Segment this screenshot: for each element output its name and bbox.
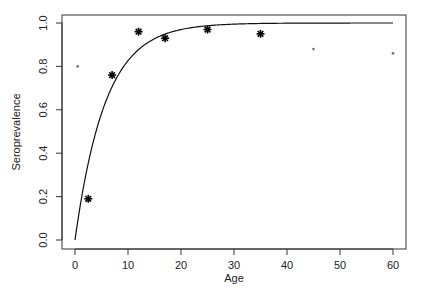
y-tick-label: 0.0 — [37, 232, 49, 247]
chart-canvas: 0102030405060 0.00.20.40.60.81.0 Age Ser… — [0, 0, 421, 305]
x-tick-label: 30 — [228, 259, 240, 271]
data-point-dot — [392, 52, 395, 55]
data-point-star — [161, 34, 169, 42]
y-tick-label: 0.2 — [37, 189, 49, 204]
data-point-star — [204, 26, 212, 34]
data-point-star — [257, 30, 265, 38]
y-tick-label: 1.0 — [37, 15, 49, 30]
x-tick-label: 50 — [334, 259, 346, 271]
x-tick-label: 10 — [122, 259, 134, 271]
data-point-star — [135, 28, 143, 36]
fitted-curve — [75, 23, 393, 240]
y-tick-label: 0.8 — [37, 59, 49, 74]
x-tick-label: 0 — [72, 259, 78, 271]
x-tick-label: 40 — [281, 259, 293, 271]
plot-frame — [62, 15, 406, 249]
x-tick-label: 20 — [175, 259, 187, 271]
y-tick-label: 0.4 — [37, 146, 49, 161]
y-axis: 0.00.20.40.60.81.0 — [37, 15, 62, 247]
x-axis: 0102030405060 — [72, 249, 399, 271]
y-tick-label: 0.6 — [37, 102, 49, 117]
data-point-star — [84, 195, 92, 203]
x-axis-title: Age — [224, 272, 244, 284]
data-point-star — [108, 71, 116, 79]
data-point-dot — [312, 48, 315, 51]
x-tick-label: 60 — [387, 259, 399, 271]
y-axis-title: Seroprevalence — [10, 93, 22, 170]
data-point-dot — [76, 65, 79, 68]
data-points — [76, 26, 394, 203]
